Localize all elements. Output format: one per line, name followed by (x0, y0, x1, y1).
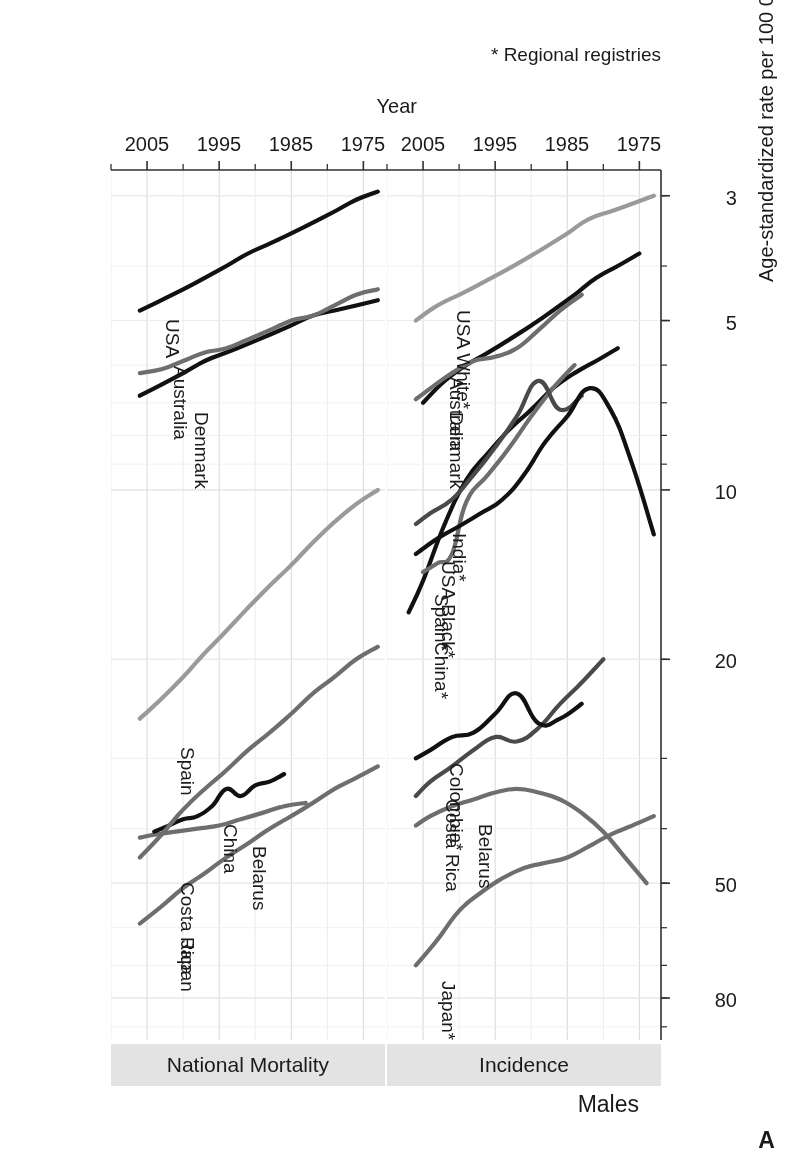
y-tick-label: 80 (675, 989, 737, 1012)
series-line (140, 192, 378, 311)
strip-header-incidence: Incidence (387, 1044, 661, 1086)
series-label-usa-black: USA Black* (437, 561, 459, 658)
x-tick-label: 1995 (179, 133, 259, 156)
y-tick-label: 5 (675, 312, 737, 335)
series-label-spain: Spain (176, 747, 198, 796)
panel-plot-area (387, 170, 661, 1040)
figure-root: A Males Incidence National Mortality Yea… (0, 0, 789, 1162)
series-label-costa-rica: Costa Rica (176, 882, 198, 975)
series-line (140, 490, 378, 719)
x-tick-label: 1985 (527, 133, 607, 156)
strip-header-national-mortality-label: National Mortality (167, 1053, 329, 1077)
x-tick-label: 1995 (455, 133, 535, 156)
figure-footnote: * Regional registries (491, 44, 661, 66)
series-label-denmark: Denmark (190, 412, 212, 489)
series-label-colombia: Colombia* (445, 763, 467, 851)
series-label-australia: Australia (169, 366, 191, 440)
rotated-figure-wrapper: A Males Incidence National Mortality Yea… (0, 0, 789, 1162)
figure-super-title: Males (578, 1091, 639, 1118)
series-label-usa: USA (161, 319, 183, 358)
series-label-china: China (219, 824, 241, 874)
y-tick-label: 50 (675, 874, 737, 897)
y-tick-label: 3 (675, 187, 737, 210)
series-line (416, 196, 654, 321)
series-label-belarus: Belarus (248, 846, 270, 910)
x-tick-label: 2005 (107, 133, 187, 156)
y-axis-title: Age-standardized rate per 100 000, all a… (755, 0, 778, 282)
series-label-japan: Japan* (437, 981, 459, 1040)
plot-panel-incidence (387, 170, 661, 1040)
panel-letter: A (758, 1127, 775, 1154)
strip-header-incidence-label: Incidence (479, 1053, 569, 1077)
series-label-usa-white: USA White* (452, 310, 474, 409)
x-tick-label: 1975 (599, 133, 679, 156)
x-axis-title: Year (377, 95, 417, 118)
y-tick-label: 20 (675, 650, 737, 673)
series-line (416, 693, 582, 758)
series-label-belarus: Belarus (474, 824, 496, 888)
strip-header-national-mortality: National Mortality (111, 1044, 385, 1086)
x-tick-label: 1985 (251, 133, 331, 156)
x-tick-label: 1975 (323, 133, 403, 156)
y-tick-label: 10 (675, 481, 737, 504)
